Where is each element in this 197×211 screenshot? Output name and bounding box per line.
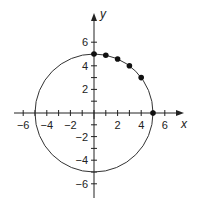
y-tick-label: −2 bbox=[75, 131, 88, 143]
y-axis-arrow bbox=[91, 13, 97, 21]
points bbox=[91, 51, 156, 116]
data-point bbox=[115, 56, 121, 62]
x-tick-label: −2 bbox=[64, 119, 77, 131]
data-point bbox=[127, 63, 133, 69]
data-point bbox=[91, 51, 97, 57]
y-tick-label: 6 bbox=[82, 36, 88, 48]
y-axis-label: y bbox=[99, 7, 107, 21]
data-point bbox=[150, 110, 156, 116]
x-tick-label: 2 bbox=[115, 119, 121, 131]
chart: −6−4−2246642−2−4−6 x y bbox=[0, 0, 197, 211]
x-tick-label: 4 bbox=[138, 119, 144, 131]
y-tick-label: 2 bbox=[82, 83, 88, 95]
y-tick-label: −6 bbox=[75, 178, 88, 190]
y-tick-label: 4 bbox=[82, 60, 88, 72]
data-point bbox=[103, 52, 109, 58]
x-tick-label: 6 bbox=[162, 119, 168, 131]
x-axis-arrow bbox=[176, 110, 184, 116]
x-tick-label: −4 bbox=[41, 119, 54, 131]
x-tick-label: −6 bbox=[17, 119, 30, 131]
data-point bbox=[138, 75, 144, 81]
axes bbox=[14, 13, 184, 198]
y-tick-label: −4 bbox=[75, 154, 88, 166]
x-axis-label: x bbox=[180, 117, 188, 131]
